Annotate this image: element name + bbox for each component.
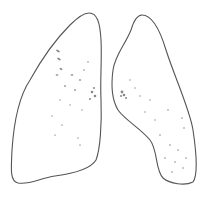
lungs-illustration	[0, 0, 209, 198]
left-lung	[11, 13, 101, 183]
right-lung	[112, 15, 196, 184]
right-lung-markings	[120, 79, 187, 173]
left-lung-markings	[51, 49, 96, 145]
